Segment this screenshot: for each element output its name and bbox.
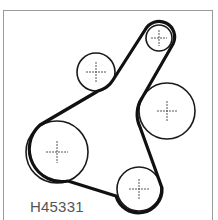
crankshaft-pulley-center-mark	[46, 141, 68, 163]
top-pulley-center-mark	[151, 30, 167, 46]
right-pulley-center-mark	[157, 101, 177, 121]
belt-routing-diagram	[0, 0, 218, 220]
figure-label: H45331	[30, 198, 84, 215]
idler-pulley-center-mark	[86, 62, 106, 82]
bottom-pulley-center-mark	[129, 179, 149, 199]
